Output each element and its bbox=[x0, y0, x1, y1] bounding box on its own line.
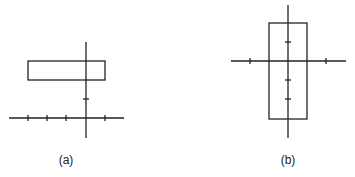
diagram-canvas bbox=[0, 0, 355, 177]
figure-a bbox=[9, 42, 124, 138]
figure-b bbox=[231, 5, 346, 138]
caption-a: (a) bbox=[59, 153, 74, 167]
caption-b: (b) bbox=[281, 153, 296, 167]
rectangle bbox=[28, 61, 105, 80]
